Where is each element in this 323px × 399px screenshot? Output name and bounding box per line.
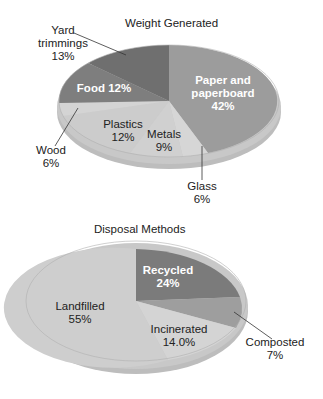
chart-title-weight-generated: Weight Generated bbox=[125, 17, 218, 29]
label-text: 9% bbox=[144, 141, 184, 154]
label-landfilled: Landfilled 55% bbox=[50, 300, 110, 326]
label-recycled: Recycled 24% bbox=[140, 264, 196, 290]
label-text: Incinerated bbox=[148, 323, 210, 336]
chart-title-disposal-methods: Disposal Methods bbox=[94, 223, 185, 235]
label-text: Yard bbox=[37, 24, 89, 37]
label-text: 6% bbox=[34, 157, 68, 170]
label-composted: Composted 7% bbox=[244, 336, 306, 362]
label-wood: Wood 6% bbox=[34, 144, 68, 170]
label-glass: Glass 6% bbox=[186, 180, 218, 206]
label-plastics: Plastics 12% bbox=[100, 118, 146, 144]
label-text: 42% bbox=[183, 100, 263, 113]
label-text: 24% bbox=[140, 277, 196, 290]
label-text: Composted bbox=[244, 336, 306, 349]
disposal-methods-pie bbox=[4, 241, 272, 374]
label-text: 55% bbox=[50, 313, 110, 326]
label-text: Glass bbox=[186, 180, 218, 193]
label-text: Recycled bbox=[140, 264, 196, 277]
label-incinerated: Incinerated 14.0% bbox=[148, 323, 210, 349]
label-text: trimmings bbox=[37, 37, 89, 50]
label-text: 13% bbox=[37, 50, 89, 63]
label-yard-trimmings: Yard trimmings 13% bbox=[37, 24, 89, 63]
label-food: Food 12% bbox=[74, 82, 134, 95]
label-text: paperboard bbox=[183, 87, 263, 100]
label-text: Wood bbox=[34, 144, 68, 157]
label-text: Landfilled bbox=[50, 300, 110, 313]
label-text: 7% bbox=[244, 349, 306, 362]
label-metals: Metals 9% bbox=[144, 128, 184, 154]
label-text: Plastics bbox=[100, 118, 146, 131]
label-text: Paper and bbox=[183, 74, 263, 87]
label-text: Metals bbox=[144, 128, 184, 141]
label-text: 14.0% bbox=[148, 336, 210, 349]
label-paper-and-paperboard: Paper and paperboard 42% bbox=[183, 74, 263, 113]
label-text: 6% bbox=[186, 193, 218, 206]
label-text: 12% bbox=[100, 131, 146, 144]
